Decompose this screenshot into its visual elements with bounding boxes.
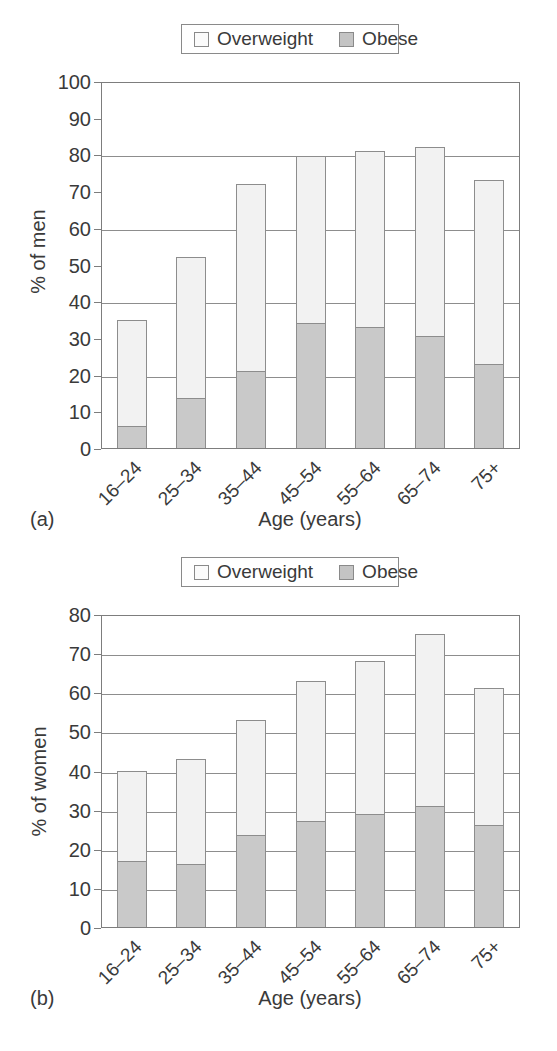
y-axis-tick-label: 20 bbox=[33, 840, 91, 860]
y-axis-tick-label: 60 bbox=[33, 219, 91, 239]
y-axis-tick-mark bbox=[94, 850, 101, 851]
stacked-bar bbox=[117, 771, 147, 927]
bar-segment-overweight bbox=[176, 257, 206, 398]
y-axis-tick-label: 80 bbox=[33, 605, 91, 625]
bar-slot bbox=[221, 83, 281, 448]
legend-entry-overweight: Overweight bbox=[194, 561, 313, 583]
panel-a-bars bbox=[102, 83, 519, 448]
legend-entry-overweight: Overweight bbox=[194, 28, 313, 50]
bar-segment-overweight bbox=[296, 156, 326, 323]
y-axis-tick-mark bbox=[94, 654, 101, 655]
bar-segment-obese bbox=[355, 327, 385, 448]
bar-slot bbox=[281, 83, 341, 448]
panel-b-caption: (b) bbox=[30, 987, 54, 1010]
stacked-bar bbox=[415, 634, 445, 927]
y-axis-tick-mark bbox=[94, 376, 101, 377]
bar-segment-overweight bbox=[117, 320, 147, 426]
y-axis-tick-mark bbox=[94, 732, 101, 733]
y-axis-tick-label: 50 bbox=[33, 722, 91, 742]
bar-segment-overweight bbox=[415, 634, 445, 806]
bar-segment-overweight bbox=[296, 681, 326, 822]
y-axis-tick-mark bbox=[94, 266, 101, 267]
bar-slot bbox=[400, 83, 460, 448]
bar-segment-obese bbox=[236, 371, 266, 448]
panel-b-bars bbox=[102, 616, 519, 927]
y-axis-tick-mark bbox=[94, 889, 101, 890]
bar-segment-overweight bbox=[355, 661, 385, 814]
panel-a-men: Overweight Obese % of men 01020304050607… bbox=[0, 0, 557, 540]
bar-segment-obese bbox=[296, 323, 326, 448]
y-axis-tick-mark bbox=[94, 811, 101, 812]
stacked-bar bbox=[236, 184, 266, 448]
y-axis-tick-mark bbox=[94, 155, 101, 156]
stacked-bar bbox=[236, 720, 266, 927]
bar-slot bbox=[102, 616, 162, 927]
y-axis-tick-label: 40 bbox=[33, 292, 91, 312]
bar-segment-obese bbox=[176, 398, 206, 448]
legend-panel-b: Overweight Obese bbox=[181, 557, 399, 587]
y-axis-tick-mark bbox=[94, 339, 101, 340]
legend-entry-obese: Obese bbox=[339, 561, 418, 583]
bar-segment-overweight bbox=[474, 180, 504, 364]
panel-b-women: Overweight Obese % of women 010203040506… bbox=[0, 540, 557, 1051]
stacked-bar bbox=[117, 320, 147, 448]
bar-segment-obese bbox=[474, 364, 504, 448]
bar-slot bbox=[459, 83, 519, 448]
bar-slot bbox=[400, 616, 460, 927]
y-axis-tick-mark bbox=[94, 302, 101, 303]
y-axis-tick-label: 20 bbox=[33, 366, 91, 386]
bar-segment-overweight bbox=[355, 151, 385, 327]
bar-slot bbox=[340, 83, 400, 448]
bar-segment-overweight bbox=[415, 147, 445, 336]
y-axis-tick-label: 10 bbox=[33, 879, 91, 899]
y-axis-tick-mark bbox=[94, 192, 101, 193]
bar-slot bbox=[221, 616, 281, 927]
bar-segment-obese bbox=[296, 821, 326, 927]
y-axis-tick-label: 90 bbox=[33, 109, 91, 129]
y-axis-tick-mark bbox=[94, 615, 101, 616]
overweight-swatch-icon bbox=[194, 565, 209, 580]
panel-b-x-axis-label: Age (years) bbox=[190, 987, 430, 1010]
bar-slot bbox=[459, 616, 519, 927]
bar-segment-obese bbox=[176, 864, 206, 927]
y-axis-tick-mark bbox=[94, 772, 101, 773]
y-axis-tick-mark bbox=[94, 229, 101, 230]
y-axis-tick-label: 50 bbox=[33, 256, 91, 276]
stacked-bar bbox=[355, 151, 385, 448]
obese-swatch-icon bbox=[339, 32, 354, 47]
panel-b-plot-area bbox=[101, 615, 520, 928]
bar-slot bbox=[281, 616, 341, 927]
bar-segment-obese bbox=[355, 814, 385, 927]
y-axis-tick-label: 0 bbox=[33, 918, 91, 938]
bar-segment-overweight bbox=[117, 771, 147, 861]
y-axis-tick-mark bbox=[94, 693, 101, 694]
y-axis-tick-mark bbox=[94, 449, 101, 450]
panel-a-caption: (a) bbox=[30, 508, 54, 531]
y-axis-tick-mark bbox=[94, 412, 101, 413]
bar-segment-obese bbox=[117, 426, 147, 448]
obese-swatch-icon bbox=[339, 565, 354, 580]
legend-label-obese: Obese bbox=[362, 28, 418, 50]
bar-segment-overweight bbox=[236, 720, 266, 835]
stacked-bar bbox=[474, 180, 504, 448]
bar-segment-overweight bbox=[474, 688, 504, 825]
bar-segment-obese bbox=[236, 835, 266, 927]
figure-obesity-by-age: Overweight Obese % of men 01020304050607… bbox=[0, 0, 557, 1051]
y-axis-tick-label: 70 bbox=[33, 182, 91, 202]
overweight-swatch-icon bbox=[194, 32, 209, 47]
panel-a-plot-area bbox=[101, 82, 520, 449]
bar-segment-obese bbox=[474, 825, 504, 927]
y-axis-tick-label: 80 bbox=[33, 145, 91, 165]
stacked-bar bbox=[296, 681, 326, 927]
legend-panel-a: Overweight Obese bbox=[181, 24, 399, 54]
panel-a-x-axis-label: Age (years) bbox=[190, 508, 430, 531]
stacked-bar bbox=[415, 147, 445, 448]
bar-segment-obese bbox=[117, 861, 147, 928]
y-axis-tick-label: 10 bbox=[33, 402, 91, 422]
stacked-bar bbox=[355, 661, 385, 927]
y-axis-tick-label: 30 bbox=[33, 329, 91, 349]
stacked-bar bbox=[296, 156, 326, 448]
y-axis-tick-label: 100 bbox=[33, 72, 91, 92]
y-axis-tick-label: 40 bbox=[33, 762, 91, 782]
bar-segment-overweight bbox=[176, 759, 206, 865]
